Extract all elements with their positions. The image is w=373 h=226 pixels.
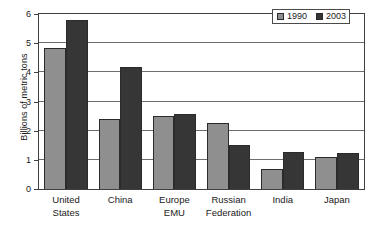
bar-group [261,14,304,189]
bar [66,20,88,189]
x-axis-label-line: States [32,206,100,219]
bar [337,153,359,189]
bar [229,145,251,189]
legend-label: 1990 [287,12,307,21]
bar [261,169,283,189]
legend-label: 2003 [326,12,346,21]
bar-group [44,14,87,189]
y-axis-ticks: 0123456 [0,13,38,190]
y-tick-label-1: 1 [26,155,31,164]
bar [283,152,305,189]
y-tick-label-2: 2 [26,126,31,135]
legend-item: 2003 [316,12,346,21]
x-axis-label-line: Japan [303,193,371,206]
bar [315,157,337,189]
legend-swatch-icon [316,13,323,20]
bar [153,116,175,189]
y-tick-label-4: 4 [26,68,31,77]
bar-group [99,14,142,189]
legend-item: 1990 [277,12,307,21]
bar-group [153,14,196,189]
bar [99,119,121,189]
legend-swatch-icon [277,13,284,20]
x-axis-labels: UnitedStatesChinaEuropeEMURussianFederat… [39,193,364,226]
bar [120,67,142,189]
y-tick-label-3: 3 [26,97,31,106]
y-tick-label-6: 6 [26,10,31,19]
bar-group [315,14,358,189]
y-tick-label-5: 5 [26,39,31,48]
bars-layer [39,14,364,189]
x-axis-label: Japan [303,193,371,206]
bar [207,123,229,190]
bar-group [207,14,250,189]
bar [44,48,66,189]
bar [174,114,196,189]
y-tick-label-0: 0 [26,185,31,194]
x-axis-label-line: Federation [195,206,263,219]
chart-legend: 19902003 [272,9,350,24]
bar-chart: Billions of metric tons 0123456 UnitedSt… [0,0,373,226]
